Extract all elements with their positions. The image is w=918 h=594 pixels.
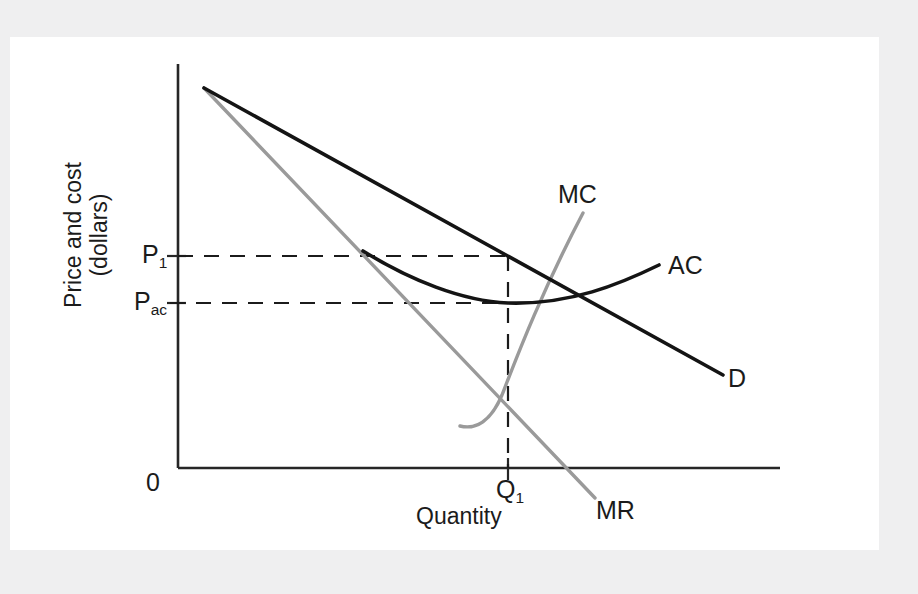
curve-mc: [460, 213, 583, 427]
label-curve-d: D: [728, 366, 746, 391]
y-axis-title-line1: Price and cost: [61, 162, 87, 308]
curve-mr: [204, 88, 595, 498]
curve-d: [204, 88, 723, 375]
label-q1: Q1: [496, 477, 524, 502]
label-curve-mc: MC: [558, 182, 597, 207]
label-pac: Pac: [134, 289, 167, 314]
y-axis-title: Price and cost (dollars): [57, 110, 117, 360]
figure-canvas: Price and cost (dollars) P1 Pac 0 Q1 Qua…: [10, 37, 879, 550]
y-axis-title-line2: (dollars): [87, 162, 113, 308]
label-origin: 0: [146, 470, 160, 495]
label-curve-ac: AC: [668, 253, 703, 278]
label-curve-mr: MR: [596, 498, 635, 523]
label-p1: P1: [142, 242, 167, 267]
x-axis-title: Quantity: [416, 505, 502, 528]
figure-page: Price and cost (dollars) P1 Pac 0 Q1 Qua…: [0, 0, 918, 594]
